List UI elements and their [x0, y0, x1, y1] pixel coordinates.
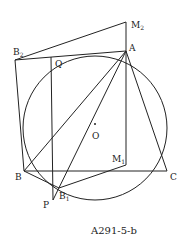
- figure-caption: A291-5-b: [90, 225, 137, 236]
- label-C: C: [170, 172, 177, 182]
- segment-B2B: [15, 60, 24, 171]
- geometry-figure: M2 A B2 Q O M1 B C B1 P A291-5-b: [0, 0, 189, 243]
- segment-BB1: [24, 171, 59, 188]
- label-A: A: [128, 43, 136, 53]
- label-M1: M1: [112, 154, 125, 165]
- label-P: P: [43, 200, 49, 210]
- label-B2: B2: [13, 47, 24, 58]
- segment-AB: [24, 51, 126, 171]
- label-O: O: [92, 131, 99, 141]
- segment-B2M2: [15, 22, 126, 60]
- label-B: B: [15, 172, 22, 182]
- segment-AC: [126, 51, 167, 171]
- segment-B2A: [15, 51, 126, 60]
- label-M2: M2: [131, 20, 144, 31]
- segment-QP: [51, 57, 53, 200]
- segment-M1B1: [59, 165, 126, 188]
- center-point: [94, 123, 96, 125]
- label-B1: B1: [59, 191, 69, 202]
- circumcircle: [23, 56, 167, 200]
- label-Q: Q: [55, 59, 62, 69]
